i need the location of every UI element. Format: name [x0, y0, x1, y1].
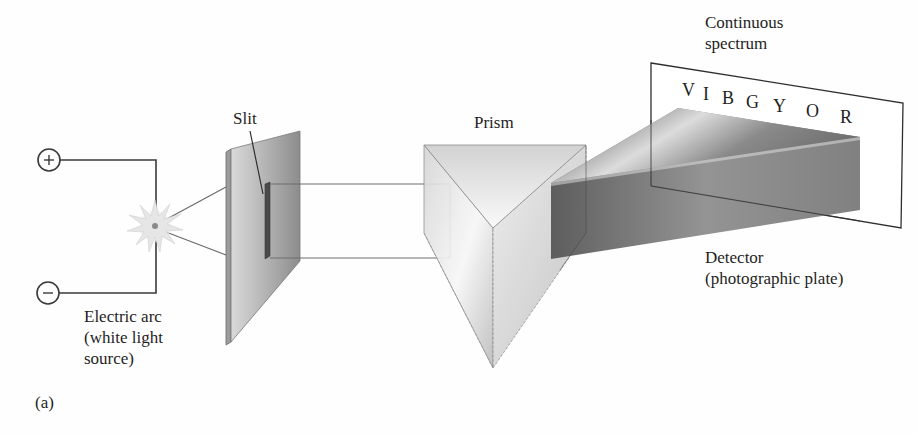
spectrum-letter-orange: O	[806, 101, 819, 122]
light-rays	[165, 187, 226, 255]
negative-terminal-icon	[37, 282, 59, 304]
detector-label-line2: (photographic plate)	[705, 268, 843, 289]
electric-arc-label-line2: (white light	[84, 327, 163, 348]
spectrum-letter-blue: B	[722, 88, 734, 109]
electric-arc-icon	[127, 200, 183, 252]
spectroscope-diagram: Slit Prism Continuous spectrum Detector …	[0, 0, 918, 434]
panel-label: (a)	[35, 392, 54, 413]
spectrum-letter-violet: V	[682, 80, 695, 101]
prism-label: Prism	[474, 112, 514, 133]
spectrum-letter-green: G	[746, 92, 759, 113]
spectrum-letter-red: R	[840, 107, 852, 128]
slit-opening	[265, 182, 270, 259]
spectrum-letter-indigo: I	[703, 84, 709, 105]
spectrum-letter-yellow: Y	[773, 96, 786, 117]
continuous-spectrum-label-line2: spectrum	[705, 33, 767, 54]
slit-label: Slit	[233, 108, 257, 129]
spectrum-fan	[551, 108, 860, 270]
positive-terminal-icon	[38, 149, 60, 171]
electric-arc-label-line1: Electric arc	[84, 306, 162, 327]
slit-plate	[226, 131, 300, 345]
diagram-canvas	[0, 0, 918, 434]
detector-label-line1: Detector	[705, 247, 764, 268]
electric-arc-label-line3: source)	[84, 348, 134, 369]
continuous-spectrum-label-line1: Continuous	[705, 12, 783, 33]
